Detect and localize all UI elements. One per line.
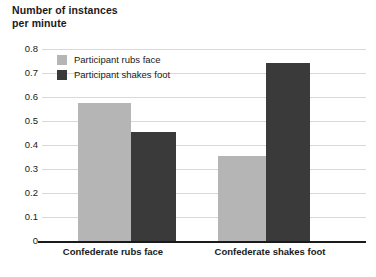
legend-item-participant-shakes-foot[interactable]: Participant shakes foot	[57, 68, 170, 81]
y-tick-label-0.4: 0.4	[4, 140, 38, 150]
legend-swatch-icon-light	[57, 55, 67, 65]
x-axis-baseline	[38, 241, 366, 243]
y-tick-label-0.2: 0.2	[4, 188, 38, 198]
legend-item-participant-rubs-face[interactable]: Participant rubs face	[57, 53, 170, 66]
gridline-0.8	[42, 49, 366, 50]
bar-confederate-shakes-foot-participant-shakes-foot[interactable]	[266, 63, 310, 241]
bar-confederate-rubs-face-participant-shakes-foot[interactable]	[131, 132, 176, 241]
gridline-0.6	[42, 97, 366, 98]
y-tick-label-0.7: 0.7	[4, 68, 38, 78]
bar-confederate-rubs-face-participant-rubs-face[interactable]	[78, 103, 131, 241]
y-tick-label-0: 0	[4, 236, 38, 246]
y-axis: 0.8 0.7 0.6 0.5 0.4 0.3 0.2 0.1 0	[0, 0, 38, 277]
bar-confederate-shakes-foot-participant-rubs-face[interactable]	[218, 156, 266, 241]
y-tick-label-0.3: 0.3	[4, 164, 38, 174]
legend-swatch-icon-dark	[57, 70, 67, 80]
legend: Participant rubs face Participant shakes…	[57, 53, 170, 83]
y-tick-label-0.1: 0.1	[4, 212, 38, 222]
x-category-label-confederate-shakes-foot: Confederate shakes foot	[170, 246, 370, 258]
y-tick-label-0.6: 0.6	[4, 92, 38, 102]
legend-label-participant-rubs-face: Participant rubs face	[74, 54, 161, 65]
y-tick-label-0.5: 0.5	[4, 116, 38, 126]
y-tick-label-0.8: 0.8	[4, 44, 38, 54]
legend-label-participant-shakes-foot: Participant shakes foot	[74, 69, 170, 80]
